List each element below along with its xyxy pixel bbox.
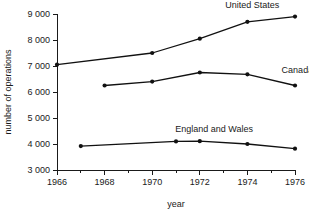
y-axis-title: number of operations xyxy=(3,49,13,135)
x-axis-tick-label: 1968 xyxy=(95,177,115,187)
axes xyxy=(57,14,295,170)
data-point-marker xyxy=(103,83,107,87)
x-axis-tick-label: 1974 xyxy=(237,177,257,187)
y-axis-tick-label: 6 000 xyxy=(27,87,50,97)
y-axis-tick-label: 3 000 xyxy=(27,165,50,175)
x-axis-tick-labels: 196619681970197219741976 xyxy=(47,177,305,187)
x-axis-tick-label: 1970 xyxy=(142,177,162,187)
y-axis-tick-label: 4 000 xyxy=(27,139,50,149)
series-line xyxy=(57,17,295,65)
x-axis-tick-label: 1966 xyxy=(47,177,67,187)
data-point-marker xyxy=(55,63,59,67)
data-point-marker xyxy=(245,142,249,146)
x-axis-tick-label: 1972 xyxy=(190,177,210,187)
data-point-marker xyxy=(293,83,297,87)
data-point-marker xyxy=(293,147,297,151)
data-point-marker xyxy=(174,139,178,143)
data-point-marker xyxy=(245,72,249,76)
series-labels-group: United StatesCanadaEngland and Wales xyxy=(175,0,309,134)
y-axis-tick-labels: 3 0004 0005 0006 0007 0008 0009 000 xyxy=(27,9,50,175)
data-point-marker xyxy=(293,15,297,19)
data-point-marker xyxy=(198,70,202,74)
line-chart: 3 0004 0005 0006 0007 0008 0009 000 1966… xyxy=(0,0,309,211)
y-axis-tick-label: 9 000 xyxy=(27,9,50,19)
data-point-marker xyxy=(198,37,202,41)
data-series xyxy=(79,139,297,151)
y-axis-tick-label: 5 000 xyxy=(27,113,50,123)
data-series xyxy=(55,15,297,67)
y-axis-tick-label: 7 000 xyxy=(27,61,50,71)
series-label: United States xyxy=(225,0,280,10)
y-axis-tick-label: 8 000 xyxy=(27,35,50,45)
chart-container: 3 0004 0005 0006 0007 0008 0009 000 1966… xyxy=(0,0,309,211)
tick-marks xyxy=(53,14,295,175)
data-series xyxy=(103,70,298,87)
data-point-marker xyxy=(150,80,154,84)
data-point-marker xyxy=(150,51,154,55)
x-axis-tick-label: 1976 xyxy=(285,177,305,187)
data-point-marker xyxy=(245,20,249,24)
series-label: Canada xyxy=(282,65,309,75)
series-label: England and Wales xyxy=(175,124,253,134)
series-line xyxy=(81,141,295,149)
x-axis-title: year xyxy=(167,199,185,209)
data-point-marker xyxy=(79,144,83,148)
data-point-marker xyxy=(198,139,202,143)
